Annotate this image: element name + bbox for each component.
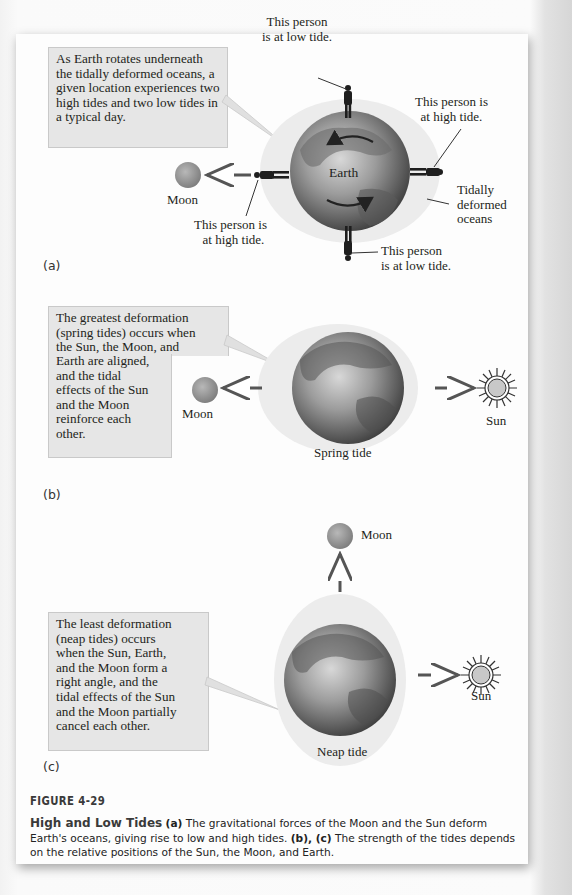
label-line: This person is [415,95,488,110]
moon-label-text: Moon [361,527,392,542]
label-line: deformed [457,198,507,213]
sun-icon [477,368,517,408]
moon-label-b: Moon [182,407,213,422]
figure-caption: High and Low Tides (a) The gravitational… [30,816,516,860]
panel-c-diagram [0,510,572,770]
moon-label-c: Moon [361,528,392,543]
caption-part-a-marker: (a) [166,817,183,829]
label-line: This person [262,15,332,30]
label-line: at high tide. [415,110,488,125]
label-line: This person [381,244,451,259]
label-line: This person is [194,218,267,233]
label-line: Tidally [457,183,507,198]
label-line: at high tide. [194,233,267,248]
moon-label-a: Moon [167,193,198,208]
earth-label: Earth [329,166,358,181]
sun-label-c: Sun [471,689,491,704]
earth-label-text: Earth [329,165,358,180]
label-line: is at low tide. [262,30,332,45]
spring-tide-text: Spring tide [314,445,371,460]
moon-label-text: Moon [167,192,198,207]
figure-number: FIGURE 4-29 [30,793,105,808]
callout-pointer [205,677,280,710]
panel-b-letter: (b) [43,487,61,502]
sun-label-text: Sun [471,688,491,703]
label-line: oceans [457,212,507,227]
neap-tide-text: Neap tide [317,744,367,759]
neap-tide-label: Neap tide [317,745,367,760]
moon-icon [327,523,353,549]
panel-c-letter: (c) [43,759,60,774]
sun-label-b: Sun [486,414,506,429]
oceans-label: Tidally deformed oceans [457,183,507,227]
sun-label-text: Sun [486,413,506,428]
person-bottom-label: This person is at low tide. [381,244,451,273]
spring-tide-label: Spring tide [314,446,371,461]
person-right-label: This person is at high tide. [415,95,488,124]
person-top-label: This person is at low tide. [262,15,332,44]
caption-part-bc-marker: (b), (c) [291,832,332,844]
caption-title: High and Low Tides [30,816,162,830]
moon-icon [192,377,218,403]
panel-a-letter: (a) [43,258,60,273]
panel-a-diagram [0,0,572,300]
moon-icon [175,162,201,188]
moon-label-text: Moon [182,406,213,421]
label-line: is at low tide. [381,259,451,274]
panel-b-diagram [0,290,572,470]
person-left-label: This person is at high tide. [194,218,267,247]
